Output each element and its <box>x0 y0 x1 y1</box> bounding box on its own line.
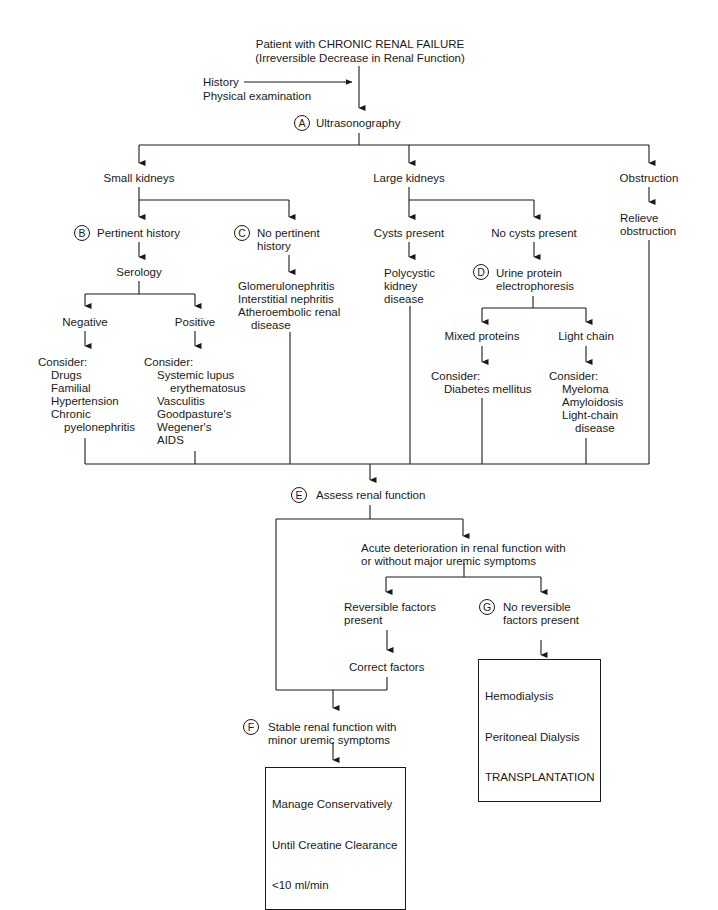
pertinent-history-node: Pertinent history <box>97 227 180 241</box>
small-kidneys-node: Small kidneys <box>89 172 189 186</box>
urine-protein-line-2: electrophoresis <box>496 280 574 294</box>
relieve-obstruction-line-1: Relieve <box>620 212 658 226</box>
no-pertinent-history-line-2: history <box>257 240 291 254</box>
ultrasonography-node: Ultrasonography <box>316 117 400 131</box>
light-consider-item: disease <box>575 422 615 436</box>
manage-box-line-1: Manage Conservatively <box>272 798 399 812</box>
mixed-proteins-node: Mixed proteins <box>427 330 537 344</box>
title-line-1: Patient with CHRONIC RENAL FAILURE <box>240 38 480 52</box>
c-result-line-3: Atheroembolic renal <box>238 306 340 320</box>
polycystic-line-3: disease <box>384 293 424 307</box>
light-consider-heading: Consider: <box>549 370 598 384</box>
serology-node: Serology <box>99 266 179 280</box>
large-kidneys-node: Large kidneys <box>359 172 459 186</box>
cysts-present-node: Cysts present <box>359 227 459 241</box>
no-pertinent-history-line-1: No pertinent <box>257 227 320 241</box>
light-consider-item: Light-chain <box>562 409 618 423</box>
reversible-factors-line-2: present <box>344 614 382 628</box>
negative-consider-item: Familial <box>51 382 91 396</box>
relieve-obstruction-line-2: obstruction <box>620 225 676 239</box>
light-chain-node: Light chain <box>541 330 631 344</box>
stable-renal-line-2: minor uremic symptoms <box>268 734 390 748</box>
urine-protein-line-1: Urine protein <box>496 267 562 281</box>
negative-consider-item: Drugs <box>51 369 82 383</box>
stable-renal-line-1: Stable renal function with <box>268 721 397 735</box>
physical-exam-label: Physical examination <box>203 90 311 104</box>
history-label: History <box>203 76 239 90</box>
negative-consider-item: Chronic <box>51 408 91 422</box>
polycystic-line-2: kidney <box>384 280 417 294</box>
mixed-consider-item: Diabetes mellitus <box>444 383 532 397</box>
no-reversible-line-1: No reversible <box>503 601 571 615</box>
c-result-line-4: disease <box>251 319 291 333</box>
positive-consider-item: Vasculitis <box>157 395 205 409</box>
step-badge-a: A <box>294 115 310 131</box>
no-cysts-present-node: No cysts present <box>474 227 594 241</box>
positive-consider-item: AIDS <box>157 434 184 448</box>
obstruction-node: Obstruction <box>604 172 694 186</box>
dialysis-box-line-2: Peritoneal Dialysis <box>485 731 594 745</box>
manage-box-line-3: <10 ml/min <box>272 879 399 893</box>
step-badge-g: G <box>479 599 495 615</box>
positive-consider-item: erythematosus <box>170 382 245 396</box>
negative-consider-item: Hypertension <box>51 395 119 409</box>
polycystic-line-1: Polycystic <box>384 267 435 281</box>
assess-renal-function-node: Assess renal function <box>316 489 425 503</box>
manage-conservatively-box: Manage Conservatively Until Creatine Cle… <box>265 767 406 910</box>
reversible-factors-line-1: Reversible factors <box>344 601 436 615</box>
positive-consider-item: Wegener's <box>157 421 211 435</box>
light-consider-item: Myeloma <box>562 383 609 397</box>
positive-consider-heading: Consider: <box>144 356 193 370</box>
title-line-2: (Irreversible Decrease in Renal Function… <box>240 52 480 66</box>
step-badge-e: E <box>291 487 307 503</box>
mixed-consider-heading: Consider: <box>431 370 480 384</box>
c-result-line-2: Interstitial nephritis <box>238 293 334 307</box>
dialysis-box-line-1: Hemodialysis <box>485 690 594 704</box>
no-reversible-line-2: factors present <box>503 614 579 628</box>
acute-deterioration-line-2: or without major uremic symptoms <box>361 555 536 569</box>
negative-node: Negative <box>45 316 125 330</box>
positive-node: Positive <box>155 316 235 330</box>
c-result-line-1: Glomerulonephritis <box>238 280 335 294</box>
step-badge-d: D <box>473 264 489 280</box>
positive-consider-item: Goodpasture's <box>157 408 231 422</box>
positive-consider-item: Systemic lupus <box>157 369 234 383</box>
correct-factors-node: Correct factors <box>349 661 424 675</box>
step-badge-f: F <box>243 719 259 735</box>
dialysis-box-line-3: TRANSPLANTATION <box>485 771 594 785</box>
step-badge-b: B <box>74 225 90 241</box>
negative-consider-item: pyelonephritis <box>64 421 135 435</box>
acute-deterioration-line-1: Acute deterioration in renal function wi… <box>361 542 566 556</box>
dialysis-transplant-box: Hemodialysis Peritoneal Dialysis TRANSPL… <box>478 659 601 802</box>
manage-box-line-2: Until Creatine Clearance <box>272 839 399 853</box>
step-badge-c: C <box>234 225 250 241</box>
negative-consider-heading: Consider: <box>38 356 87 370</box>
light-consider-item: Amyloidosis <box>562 396 623 410</box>
